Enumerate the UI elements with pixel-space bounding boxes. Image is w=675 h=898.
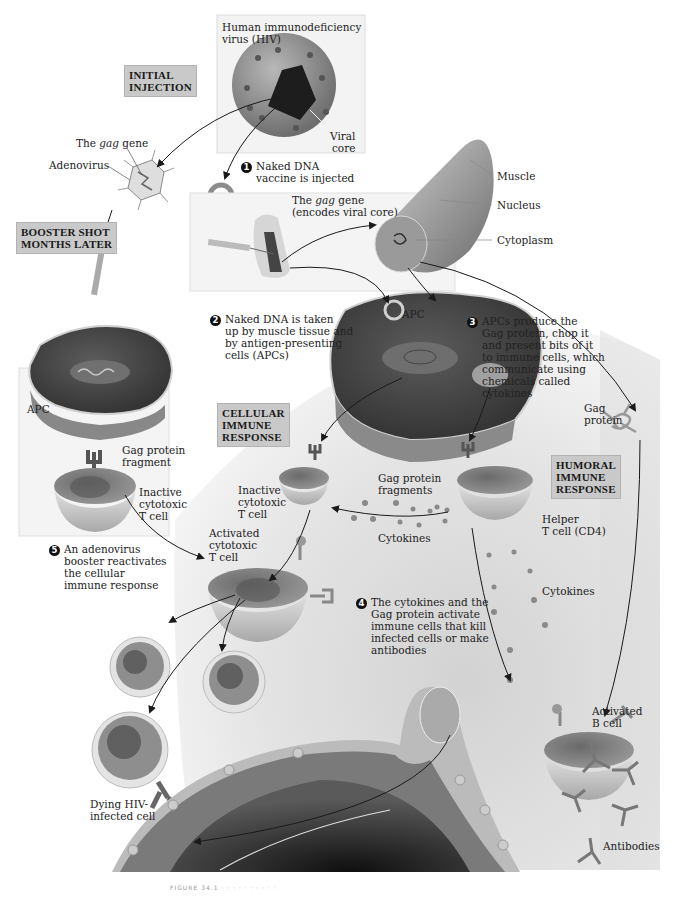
gag-fragment-line2: fragment xyxy=(122,456,185,468)
step-number-badge: 5 xyxy=(49,545,60,556)
gag-gene-suffix: gene xyxy=(119,137,148,149)
inactive-t-cell-left-label: Inactive cytotoxic T cell xyxy=(139,486,187,522)
activated-t-cell-label: Activated cytotoxic T cell xyxy=(209,527,259,563)
helper-t-line2: T cell (CD4) xyxy=(542,525,606,537)
cytokines-left-label: Cytokines xyxy=(378,532,431,544)
gag-encodes-italic: gag xyxy=(315,194,335,206)
viral-core-line2: core xyxy=(330,142,355,154)
inactive-t-mid-line2: cytotoxic xyxy=(238,496,286,508)
activated-t-line1: Activated xyxy=(209,527,259,539)
step-text: Naked DNA vaccine is injected xyxy=(256,160,354,184)
inactive-t-mid-line1: Inactive xyxy=(238,484,286,496)
hiv-label-line1: Human immunodeficiency xyxy=(222,21,361,33)
step-text: The cytokines and the Gag protein activa… xyxy=(371,596,489,656)
initial-injection-label: INITIAL INJECTION xyxy=(124,65,197,97)
step-number-badge: 1 xyxy=(241,162,252,173)
dying-cell-line1: Dying HIV- xyxy=(90,798,155,810)
step-number-badge: 2 xyxy=(210,315,221,326)
gag-encodes-prefix: The xyxy=(292,194,315,206)
gag-gene-italic: gag xyxy=(99,137,119,149)
antibodies-label: Antibodies xyxy=(603,840,660,852)
figure-caption: FIGURE 34.1 · · · · · · · · · · xyxy=(170,884,277,891)
helper-t-line1: Helper xyxy=(542,513,606,525)
viral-core-label: Viral core xyxy=(330,130,355,154)
inactive-t-mid-line3: T cell xyxy=(238,508,286,520)
hiv-label-line2: virus (HIV) xyxy=(222,33,361,45)
activated-t-line3: T cell xyxy=(209,551,259,563)
booster-shot-label: BOOSTER SHOT MONTHS LATER xyxy=(16,222,117,254)
cytokines-right-label: Cytokines xyxy=(542,585,595,597)
adenovirus-label: Adenovirus xyxy=(49,159,109,171)
apc-left-label: APC xyxy=(27,403,50,415)
step-number-badge: 4 xyxy=(356,598,367,609)
gag-fragment-line1: Gag protein xyxy=(122,444,185,456)
gag-fragments-line1: Gag protein xyxy=(378,472,441,484)
cellular-response-text: CELLULAR IMMUNE RESPONSE xyxy=(222,407,285,443)
inactive-t-left-line3: T cell xyxy=(139,510,187,522)
inactive-t-left-line1: Inactive xyxy=(139,486,187,498)
nucleus-label: Nucleus xyxy=(497,199,541,211)
step-text: Naked DNA is taken up by muscle tissue a… xyxy=(225,313,353,361)
step-4: 4The cytokines and the Gag protein activ… xyxy=(356,596,489,656)
gag-protein-line1: Gag xyxy=(584,402,623,414)
apc-top-label: APC xyxy=(402,308,425,320)
gag-protein-label: Gag protein xyxy=(584,402,623,426)
step-5: 5An adenovirus booster reactivates the c… xyxy=(49,543,167,591)
activated-b-line1: Activated xyxy=(592,705,642,717)
step-2: 2Naked DNA is taken up by muscle tissue … xyxy=(210,313,353,361)
activated-b-line2: B cell xyxy=(592,717,642,729)
booster-shot-text: BOOSTER SHOT MONTHS LATER xyxy=(21,226,112,250)
step-number-badge: 3 xyxy=(467,317,478,328)
initial-injection-text: INITIAL INJECTION xyxy=(129,69,192,93)
step-text: APCs produce the Gag protein, chop it an… xyxy=(482,315,605,399)
muscle-label: Muscle xyxy=(497,170,535,182)
gag-gene-encodes-label: The gag gene (encodes viral core) xyxy=(292,194,398,218)
step-text: An adenovirus booster reactivates the ce… xyxy=(64,543,167,591)
humoral-immune-response-label: HUMORAL IMMUNE RESPONSE xyxy=(551,455,621,499)
gag-encodes-line2: (encodes viral core) xyxy=(292,206,398,218)
viral-core-line1: Viral xyxy=(330,130,355,142)
helper-t-cell-label: Helper T cell (CD4) xyxy=(542,513,606,537)
gag-gene-label: The gag gene xyxy=(76,137,148,149)
hiv-dna-vaccine-diagram: INITIAL INJECTION BOOSTER SHOT MONTHS LA… xyxy=(0,0,675,898)
gag-protein-fragment-label: Gag protein fragment xyxy=(122,444,185,468)
activated-t-line2: cytotoxic xyxy=(209,539,259,551)
gag-encodes-suffix: gene xyxy=(335,194,364,206)
gag-protein-fragments-label: Gag protein fragments xyxy=(378,472,441,496)
inactive-t-cell-mid-label: Inactive cytotoxic T cell xyxy=(238,484,286,520)
hiv-label: Human immunodeficiency virus (HIV) xyxy=(222,21,361,45)
gag-protein-line2: protein xyxy=(584,414,623,426)
cellular-immune-response-label: CELLULAR IMMUNE RESPONSE xyxy=(217,403,290,447)
humoral-response-text: HUMORAL IMMUNE RESPONSE xyxy=(556,459,616,495)
step-3: 3APCs produce the Gag protein, chop it a… xyxy=(467,315,605,399)
step-1: 1Naked DNA vaccine is injected xyxy=(241,160,354,184)
dying-hiv-infected-cell-label: Dying HIV- infected cell xyxy=(90,798,155,822)
activated-b-cell-label: Activated B cell xyxy=(592,705,642,729)
dying-cell-line2: infected cell xyxy=(90,810,155,822)
gag-gene-prefix: The xyxy=(76,137,99,149)
cytoplasm-label: Cytoplasm xyxy=(497,234,553,246)
inactive-t-left-line2: cytotoxic xyxy=(139,498,187,510)
gag-fragments-line2: fragments xyxy=(378,484,441,496)
